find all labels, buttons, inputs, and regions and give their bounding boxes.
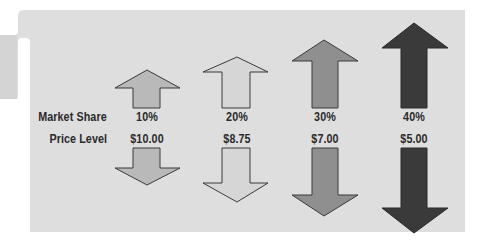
price-level-row-label: Price Level	[49, 132, 107, 146]
market-share-value: 10%	[121, 110, 173, 124]
price-level-value: $10.00	[121, 132, 173, 146]
market-share-value: 30%	[299, 110, 351, 124]
panel-tab-shadow	[0, 35, 17, 99]
diagram-canvas: Market Share Price Level 10% 20% 30% 40%…	[0, 0, 485, 252]
price-level-value: $7.00	[299, 132, 351, 146]
market-share-value: 40%	[388, 110, 440, 124]
market-share-row-label: Market Share	[38, 110, 107, 124]
price-level-value: $5.00	[388, 132, 440, 146]
price-level-value: $8.75	[211, 132, 263, 146]
market-share-value: 20%	[211, 110, 263, 124]
diagram-graphics	[0, 0, 485, 252]
